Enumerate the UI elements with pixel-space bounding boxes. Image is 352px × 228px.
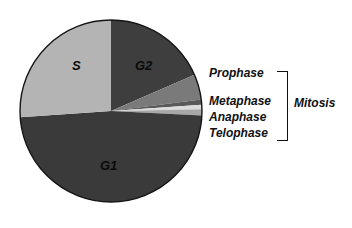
pie-slice-s [20,20,111,117]
label-anaphase: Anaphase [209,111,266,123]
label-s: S [72,59,81,72]
pie-slice-g1 [20,111,202,202]
label-metaphase: Metaphase [209,95,271,107]
label-g1: G1 [100,159,117,172]
label-mitosis: Mitosis [294,97,335,109]
label-g2: G2 [135,59,152,72]
mitosis-bracket [277,71,288,141]
label-prophase: Prophase [209,67,264,79]
label-telophase: Telophase [209,127,268,139]
cell-cycle-pie-chart [0,0,352,228]
